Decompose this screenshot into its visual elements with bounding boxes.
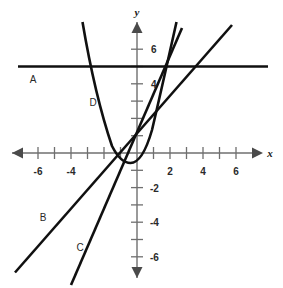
x-axis-arrow-left-icon: [12, 148, 23, 159]
x-tick-label-6: 6: [233, 166, 239, 177]
x-tick-label--4: -4: [67, 166, 76, 177]
curve-label-d: D: [89, 97, 96, 108]
curve-b-line: [15, 25, 232, 273]
y-axis-arrow-down-icon: [132, 267, 143, 278]
y-tick-label--2: -2: [150, 183, 159, 194]
x-tick-label--6: -6: [34, 166, 43, 177]
y-tick-label--4: -4: [150, 217, 159, 228]
y-tick-label-6: 6: [151, 44, 157, 55]
y-axis-arrow-up-icon: [132, 22, 143, 33]
curve-label-a: A: [30, 74, 37, 85]
curve-label-b: B: [40, 212, 47, 223]
y-tick-label--6: -6: [150, 252, 159, 263]
coordinate-plane-svg: -6 -4 2 4 6 6 4 -2 -4 -6 x y A D B C: [0, 0, 283, 288]
y-tick-label-4: 4: [151, 79, 157, 90]
y-axis-name: y: [133, 6, 140, 18]
y-axis: [131, 22, 143, 278]
x-tick-label-4: 4: [200, 166, 206, 177]
x-axis-name: x: [266, 147, 273, 159]
graph-figure: -6 -4 2 4 6 6 4 -2 -4 -6 x y A D B C: [0, 0, 283, 288]
x-tick-label-2: 2: [167, 166, 173, 177]
curve-label-c: C: [76, 242, 83, 253]
x-axis-arrow-right-icon: [252, 148, 263, 159]
